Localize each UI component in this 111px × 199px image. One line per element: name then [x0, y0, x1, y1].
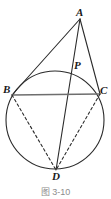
segment-AC	[80, 19, 100, 94]
point-label-b: B	[3, 84, 10, 95]
segment-BC	[12, 94, 100, 95]
point-label-c: C	[100, 85, 107, 96]
point-label-p: P	[74, 60, 81, 71]
geometry-figure: A P B C D 图 3-10	[0, 0, 111, 199]
point-label-a: A	[76, 7, 83, 18]
figure-caption: 图 3-10	[0, 188, 111, 197]
segment-CD	[56, 94, 100, 170]
point-label-d: D	[52, 171, 60, 182]
segment-BD	[12, 95, 56, 170]
